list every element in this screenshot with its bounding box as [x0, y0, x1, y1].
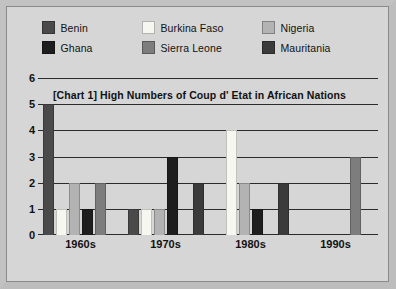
- bar-1980s-burkina-faso[interactable]: [226, 130, 237, 235]
- legend-swatch-mauritania: [262, 41, 275, 54]
- legend-item-ghana[interactable]: Ghana: [42, 41, 142, 54]
- y-tick-0: 0: [29, 229, 35, 241]
- y-tick-6: 6: [29, 72, 35, 84]
- legend-label-burkina-faso: Burkina Faso: [161, 22, 224, 34]
- legend-item-nigeria[interactable]: Nigeria: [262, 21, 354, 34]
- bar-1970s-benin[interactable]: [128, 209, 139, 235]
- bar-1980s-ghana[interactable]: [252, 209, 263, 235]
- x-axis-labels: 1960s1970s1980s1990s: [38, 238, 378, 256]
- bar-group-1970s: [123, 78, 208, 235]
- bar-1970s-nigeria[interactable]: [154, 209, 165, 235]
- bar-1960s-sierra-leone[interactable]: [95, 183, 106, 235]
- bar-groups: [38, 78, 378, 235]
- chart-panel: BeninBurkina FasoNigeriaGhanaSierra Leon…: [6, 6, 389, 282]
- legend-item-sierra-leone[interactable]: Sierra Leone: [142, 41, 262, 54]
- legend-label-nigeria: Nigeria: [281, 22, 315, 34]
- x-tick-1990s: 1990s: [293, 238, 378, 256]
- bar-1960s-burkina-faso[interactable]: [56, 209, 67, 235]
- legend-item-mauritania[interactable]: Mauritania: [262, 41, 354, 54]
- legend-row: BeninBurkina FasoNigeria: [42, 21, 354, 34]
- bar-1980s-mauritania[interactable]: [278, 183, 289, 235]
- x-tick-1960s: 1960s: [38, 238, 123, 256]
- legend-row: GhanaSierra LeoneMauritania: [42, 41, 354, 54]
- bar-1980s-nigeria[interactable]: [239, 183, 250, 235]
- bar-group-1980s: [208, 78, 293, 235]
- legend-swatch-benin: [42, 21, 55, 34]
- legend-label-sierra-leone: Sierra Leone: [161, 42, 222, 54]
- legend-swatch-nigeria: [262, 21, 275, 34]
- x-tick-1970s: 1970s: [123, 238, 208, 256]
- bar-1960s-nigeria[interactable]: [69, 183, 80, 235]
- legend-label-ghana: Ghana: [61, 42, 93, 54]
- legend-swatch-ghana: [42, 41, 55, 54]
- bar-1960s-benin[interactable]: [43, 104, 54, 235]
- legend-item-burkina-faso[interactable]: Burkina Faso: [142, 21, 262, 34]
- legend-item-benin[interactable]: Benin: [42, 21, 142, 34]
- legend-swatch-sierra-leone: [142, 41, 155, 54]
- bar-1970s-ghana[interactable]: [167, 157, 178, 236]
- y-axis-labels: 0123456: [21, 78, 35, 235]
- legend-label-benin: Benin: [61, 22, 88, 34]
- x-tick-1980s: 1980s: [208, 238, 293, 256]
- y-tick-3: 3: [29, 151, 35, 163]
- bar-1960s-ghana[interactable]: [82, 209, 93, 235]
- legend-label-mauritania: Mauritania: [281, 42, 331, 54]
- bar-1990s-sierra-leone[interactable]: [350, 157, 361, 236]
- bar-group-1960s: [38, 78, 123, 235]
- bar-1970s-burkina-faso[interactable]: [141, 209, 152, 235]
- y-tick-2: 2: [29, 177, 35, 189]
- chart-frame: BeninBurkina FasoNigeriaGhanaSierra Leon…: [0, 0, 396, 289]
- plot-area: 0123456 [Chart 1] High Numbers of Coup d…: [21, 78, 378, 258]
- legend-swatch-burkina-faso: [142, 21, 155, 34]
- y-tick-1: 1: [29, 203, 35, 215]
- bar-group-1990s: [293, 78, 378, 235]
- chart-legend: BeninBurkina FasoNigeriaGhanaSierra Leon…: [7, 21, 388, 54]
- y-tick-4: 4: [29, 124, 35, 136]
- bar-1970s-mauritania[interactable]: [193, 183, 204, 235]
